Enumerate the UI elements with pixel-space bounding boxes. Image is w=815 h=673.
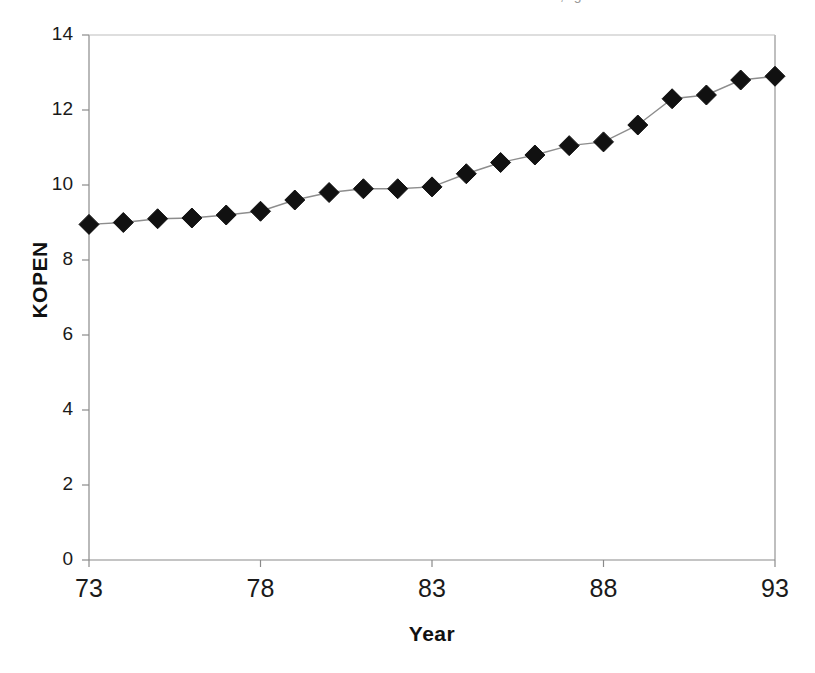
data-point-marker xyxy=(525,145,545,165)
chart-page: , g 02468101214 7378838893 KOPEN Year xyxy=(0,0,815,673)
data-point-marker xyxy=(285,190,305,210)
data-point-marker xyxy=(491,153,511,173)
data-point-marker xyxy=(456,164,476,184)
x-axis-tick-label: 83 xyxy=(397,574,467,603)
x-axis-tick-label: 78 xyxy=(226,574,296,603)
data-point-marker xyxy=(422,177,442,197)
axis-ticks xyxy=(82,35,775,567)
data-point-marker xyxy=(79,214,99,234)
data-point-marker xyxy=(251,201,271,221)
x-axis-title: Year xyxy=(89,622,775,646)
plot-frame xyxy=(89,35,775,560)
y-axis-tick-label: 14 xyxy=(33,23,73,45)
data-point-marker xyxy=(319,183,339,203)
y-axis-tick-label: 0 xyxy=(33,548,73,570)
data-point-marker xyxy=(559,136,579,156)
y-axis-title: KOPEN xyxy=(28,220,52,340)
y-axis-tick-label: 12 xyxy=(33,98,73,120)
line-chart-figure: 02468101214 7378838893 KOPEN Year xyxy=(0,0,815,673)
data-point-marker xyxy=(765,66,785,86)
data-point-marker xyxy=(148,209,168,229)
data-point-marker xyxy=(353,179,373,199)
series-markers xyxy=(79,66,785,234)
y-axis-tick-label: 2 xyxy=(33,473,73,495)
data-point-marker xyxy=(216,205,236,225)
data-point-marker xyxy=(594,132,614,152)
y-axis-tick-label: 10 xyxy=(33,173,73,195)
data-point-marker xyxy=(696,85,716,105)
data-point-marker xyxy=(113,213,133,233)
x-axis-tick-label: 93 xyxy=(740,574,810,603)
x-axis-tick-label: 88 xyxy=(569,574,639,603)
data-point-marker xyxy=(731,70,751,90)
data-point-marker xyxy=(182,208,202,228)
y-axis-tick-label: 4 xyxy=(33,398,73,420)
chart-canvas xyxy=(0,0,815,673)
data-point-marker xyxy=(388,179,408,199)
x-axis-tick-label: 73 xyxy=(54,574,124,603)
data-point-marker xyxy=(628,115,648,135)
data-point-marker xyxy=(662,89,682,109)
